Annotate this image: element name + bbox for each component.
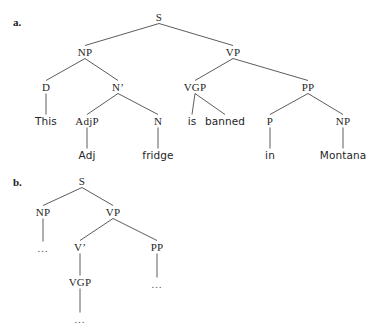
- panel-label-b: b.: [13, 176, 22, 188]
- tree-node-a-in: in: [265, 150, 275, 161]
- tree-node-b-dot2: …: [151, 279, 163, 290]
- tree-node-a-S: S: [156, 12, 162, 23]
- tree-node-a-PP: PP: [302, 82, 315, 93]
- tree-nodes: a.SNPVPDN’VGPPPThisAdjPNisbannedPNPAdjfr…: [0, 0, 373, 336]
- tree-node-a-P: P: [267, 116, 273, 127]
- tree-node-a-VP: VP: [226, 47, 240, 58]
- tree-node-a-Nbar: N’: [112, 82, 124, 93]
- tree-node-b-NP: NP: [36, 207, 50, 218]
- tree-node-a-NP2: NP: [336, 116, 350, 127]
- tree-node-b-VGP: VGP: [69, 277, 92, 288]
- tree-node-a-N: N: [154, 116, 162, 127]
- tree-node-a-VGP: VGP: [184, 82, 207, 93]
- tree-node-a-is: is: [188, 116, 197, 127]
- tree-node-a-fridge: fridge: [142, 150, 173, 161]
- tree-node-b-dot3: …: [74, 314, 86, 325]
- tree-node-b-Vbar: V’: [74, 242, 86, 253]
- syntax-tree-figure: a.SNPVPDN’VGPPPThisAdjPNisbannedPNPAdjfr…: [0, 0, 373, 336]
- tree-node-a-banned: banned: [205, 116, 245, 127]
- tree-node-b-VP: VP: [106, 207, 120, 218]
- panel-label-a: a.: [13, 16, 21, 28]
- tree-node-a-Montana: Montana: [320, 150, 366, 161]
- tree-node-a-D: D: [42, 82, 50, 93]
- tree-node-a-NP: NP: [78, 47, 92, 58]
- tree-node-b-PP: PP: [151, 242, 164, 253]
- tree-node-a-This: This: [35, 116, 57, 127]
- tree-node-a-Adj: Adj: [79, 150, 96, 161]
- tree-node-b-dot1: …: [37, 243, 49, 254]
- tree-node-a-AdjP: AdjP: [75, 116, 98, 127]
- tree-node-b-S: S: [79, 176, 85, 187]
